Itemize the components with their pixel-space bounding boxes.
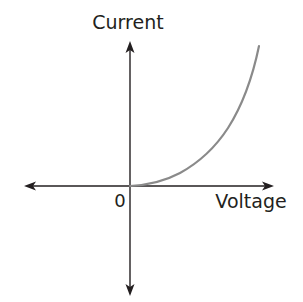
origin-label: 0 [114, 190, 125, 211]
iv-diagram: Current Voltage 0 [0, 0, 303, 302]
y-axis-label: Current [92, 11, 163, 33]
y-axis [126, 41, 135, 296]
x-axis-label: Voltage [215, 190, 286, 212]
iv-curve [130, 46, 259, 186]
